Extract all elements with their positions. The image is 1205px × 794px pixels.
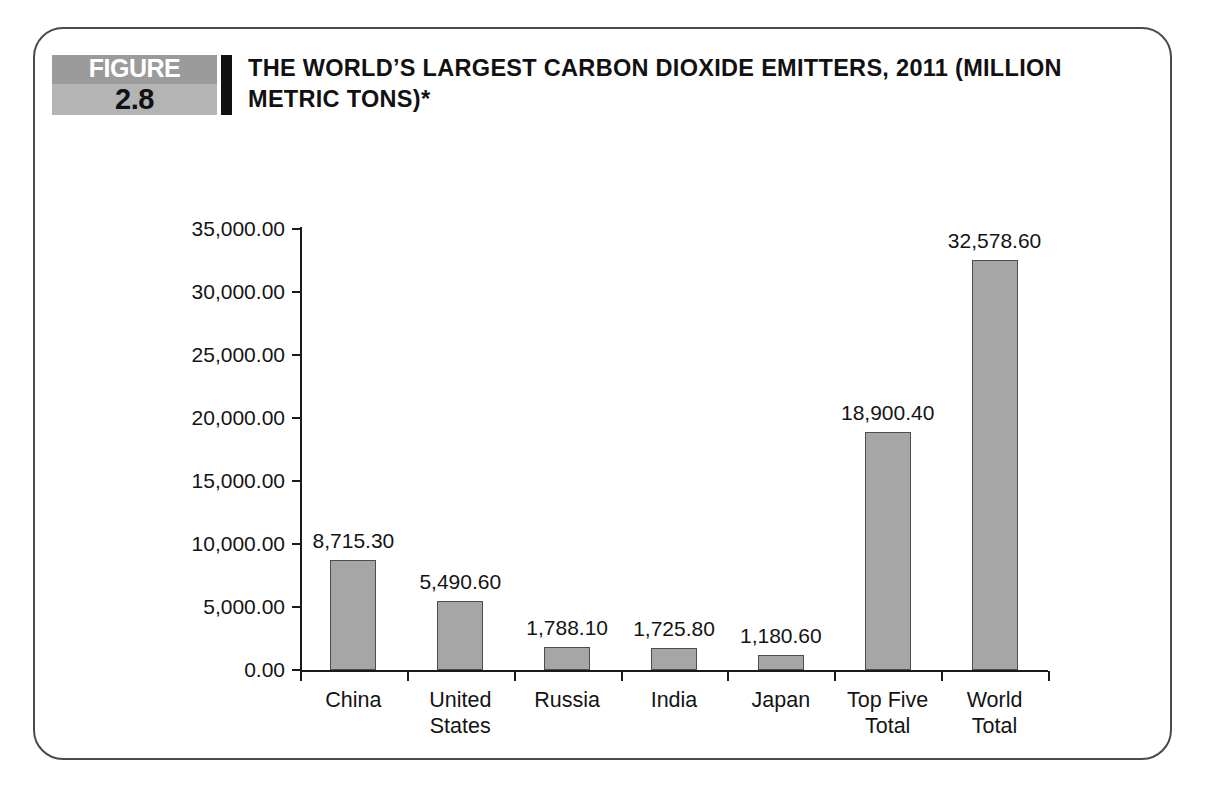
figure-card: FIGURE 2.8 THE WORLD’S LARGEST CARBON DI… (33, 27, 1172, 760)
badge-accent-bar (221, 55, 232, 115)
bar-india[interactable] (651, 648, 697, 670)
y-axis-tick-label: 35,000.00 (135, 218, 285, 239)
bar-chart-plot: 0.005,000.0010,000.0015,000.0020,000.002… (35, 139, 1170, 762)
x-axis-category-line: Total (929, 713, 1060, 739)
bar-value-label: 8,715.30 (253, 530, 453, 551)
x-axis-tick (514, 671, 516, 681)
bar-top-five-total[interactable] (865, 432, 911, 670)
x-axis-tick (834, 671, 836, 681)
y-axis-tick (292, 606, 301, 608)
y-axis-tick (292, 354, 301, 356)
y-axis-tick-label: 25,000.00 (135, 344, 285, 365)
x-axis-tick (1048, 671, 1050, 681)
figure-header: FIGURE 2.8 THE WORLD’S LARGEST CARBON DI… (35, 29, 1170, 139)
x-axis-tick (407, 671, 409, 681)
figure-title: THE WORLD’S LARGEST CARBON DIOXIDE EMITT… (248, 53, 1128, 115)
chart-region: 0.005,000.0010,000.0015,000.0020,000.002… (35, 139, 1170, 762)
bar-value-label: 18,900.40 (788, 402, 988, 423)
x-axis-tick (727, 671, 729, 681)
y-axis-tick-label: 20,000.00 (135, 407, 285, 428)
x-axis-tick (621, 671, 623, 681)
bar-world-total[interactable] (972, 260, 1018, 670)
y-axis-tick (292, 291, 301, 293)
y-axis-tick-label: 5,000.00 (135, 596, 285, 617)
bar-value-label: 5,490.60 (360, 571, 560, 592)
figure-number-badge: FIGURE 2.8 (52, 55, 244, 115)
x-axis-category-line: World (929, 687, 1060, 713)
x-axis-line (300, 670, 1048, 672)
bar-japan[interactable] (758, 655, 804, 670)
y-axis-tick (292, 417, 301, 419)
y-axis-tick (292, 480, 301, 482)
x-axis-category-line: States (395, 713, 526, 739)
badge-figure-word: FIGURE (52, 53, 217, 83)
x-axis-tick-origin (300, 671, 302, 681)
bar-value-label: 1,180.60 (681, 625, 881, 646)
bar-russia[interactable] (544, 647, 590, 670)
y-axis-tick-label: 15,000.00 (135, 470, 285, 491)
y-axis-tick-label: 30,000.00 (135, 281, 285, 302)
x-axis-category-label: WorldTotal (929, 687, 1060, 739)
badge-figure-number: 2.8 (52, 82, 217, 116)
y-axis-tick (292, 228, 301, 230)
x-axis-tick (941, 671, 943, 681)
bar-value-label: 32,578.60 (895, 230, 1095, 251)
y-axis-tick-label: 0.00 (135, 659, 285, 680)
